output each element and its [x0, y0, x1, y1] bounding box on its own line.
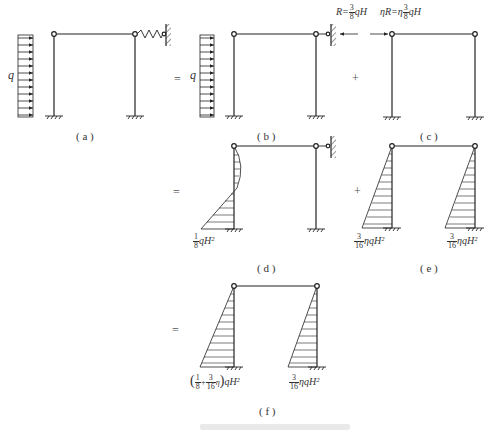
- frame-diagram-canvas: [0, 0, 497, 434]
- panel-c: [370, 32, 484, 120]
- hinge-icon: [314, 144, 319, 149]
- fixed-support-icon: [225, 229, 243, 232]
- fixed-support-icon: [308, 367, 326, 370]
- load-label-q-b: q: [190, 69, 196, 81]
- panel-label-f: ( f ): [259, 405, 276, 417]
- hinge-icon: [133, 32, 138, 37]
- panel-d: [201, 136, 336, 232]
- fixed-support-icon: [126, 116, 144, 119]
- moment-label-e-right: 316ηqH²: [447, 233, 477, 250]
- distributed-load-q: [200, 35, 214, 117]
- hinge-icon: [473, 144, 478, 149]
- panel-a: [18, 24, 171, 119]
- moment-label-e-left: 316ηqH²: [354, 233, 384, 250]
- plus-sign: +: [352, 71, 359, 86]
- figure-caption: [200, 424, 350, 430]
- panel-f: [200, 284, 326, 370]
- distributed-load-q: [18, 35, 33, 117]
- reaction-label-R: R=38qH: [336, 4, 367, 21]
- moment-diagram: [288, 286, 317, 367]
- reaction-label-etaR: ηR=η38qH: [380, 4, 421, 21]
- moment-label-f-right: 316ηqH²: [289, 374, 319, 391]
- panel-label-b: ( b ): [257, 130, 275, 142]
- equals-sign: =: [172, 323, 179, 338]
- hinge-icon: [390, 144, 395, 149]
- fixed-support-icon: [466, 117, 484, 120]
- equals-sign: =: [174, 72, 181, 87]
- panel-e: [362, 144, 484, 231]
- hinge-icon: [232, 144, 237, 149]
- fixed-support-icon: [307, 116, 325, 119]
- panel-b: [200, 24, 358, 119]
- plus-sign: +: [354, 184, 361, 199]
- hinge-icon: [390, 32, 395, 37]
- hinge-icon: [232, 32, 237, 37]
- fixed-support-icon: [225, 367, 243, 370]
- hinge-icon: [314, 32, 319, 37]
- fixed-support-icon: [45, 116, 63, 119]
- moment-diagram: [200, 286, 234, 367]
- panel-label-c: ( c ): [420, 130, 438, 142]
- moment-diagram: [201, 146, 241, 229]
- fixed-support-icon: [307, 229, 325, 232]
- panel-label-d: ( d ): [257, 262, 275, 274]
- fixed-support-icon: [466, 228, 484, 231]
- hinge-icon: [52, 32, 57, 37]
- moment-label-f-left: (18+316η)qH²: [190, 374, 240, 391]
- panel-label-e: ( e ): [420, 262, 438, 274]
- moment-label-d: 18qH²: [193, 233, 214, 250]
- fixed-support-icon: [383, 228, 401, 231]
- hinge-icon: [473, 32, 478, 37]
- fixed-support-icon: [225, 116, 243, 119]
- moment-diagram: [445, 146, 475, 228]
- moment-diagram: [362, 146, 392, 228]
- load-label-q-a: q: [8, 69, 14, 81]
- fixed-support-icon: [383, 117, 401, 120]
- hinge-icon: [315, 284, 320, 289]
- panel-label-a: ( a ): [76, 130, 94, 142]
- spring-icon: [137, 30, 163, 38]
- equals-sign: =: [173, 185, 180, 200]
- hinge-icon: [232, 284, 237, 289]
- hinge-icon: [162, 32, 166, 36]
